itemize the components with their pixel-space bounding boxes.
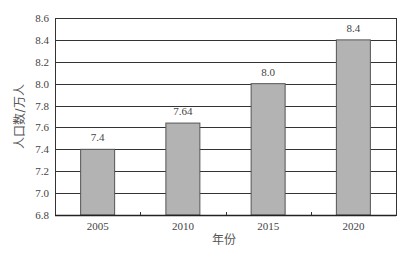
y-tick-label: 7.0 [9, 187, 49, 199]
x-tick-label: 2015 [243, 220, 293, 232]
bar-value-label: 8.0 [243, 66, 293, 78]
bar [166, 123, 200, 215]
y-tick-label: 8.4 [9, 34, 49, 46]
x-tick-label: 2020 [328, 220, 378, 232]
y-tick-label: 7.2 [9, 165, 49, 177]
bar-value-label: 7.4 [73, 131, 123, 143]
y-axis-label: 人口数/万人 [10, 77, 27, 157]
bar-value-label: 7.64 [158, 105, 208, 117]
x-tick-label: 2010 [158, 220, 208, 232]
bar [336, 40, 370, 215]
x-axis-label: 年份 [212, 230, 236, 247]
y-tick-label: 6.8 [9, 209, 49, 221]
y-tick-label: 8.6 [9, 12, 49, 24]
y-tick-label: 8.2 [9, 56, 49, 68]
x-tick-label: 2005 [73, 220, 123, 232]
bar-value-label: 8.4 [328, 22, 378, 34]
bar [251, 84, 285, 215]
bar-chart: 6.87.07.27.47.67.88.08.28.48.6 200520102… [0, 0, 410, 255]
bar [81, 149, 115, 215]
plot-area [0, 0, 410, 255]
